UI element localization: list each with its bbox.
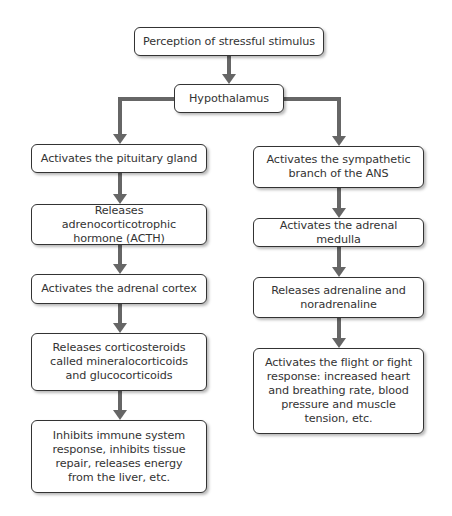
node-label: Releases adrenaline and noradrenaline [271, 284, 406, 312]
node-label: Activates the adrenal medulla [260, 219, 417, 247]
node-label: Inhibits immune system response, inhibit… [53, 429, 186, 485]
arrowhead-icon [113, 194, 127, 204]
arrowhead-icon [332, 208, 346, 218]
node-stimulus-label: Perception of stressful stimulus [143, 35, 315, 49]
arrowhead-icon [332, 338, 346, 348]
node-hypothalamus-label: Hypothalamus [189, 92, 269, 106]
node-adrenal-medulla: Activates the adrenal medulla [253, 218, 424, 247]
node-label: Activates the adrenal cortex [41, 282, 196, 296]
node-stimulus: Perception of stressful stimulus [134, 27, 324, 56]
node-corticosteroids: Releases corticosteroids called mineralo… [31, 333, 207, 391]
node-label: Activates the flight or fight response: … [265, 356, 412, 426]
node-adrenal-cortex: Activates the adrenal cortex [31, 274, 207, 304]
node-adrenaline-release: Releases adrenaline and noradrenaline [253, 277, 424, 318]
arrowhead-icon [332, 136, 346, 146]
node-hypothalamus: Hypothalamus [174, 84, 284, 113]
arrowhead-icon [113, 134, 127, 144]
node-label: Releases adrenocorticotrophic hormone (A… [38, 204, 200, 246]
arrowhead-icon [113, 264, 127, 274]
arrowhead-icon [113, 410, 127, 420]
node-label: Releases corticosteroids called mineralo… [50, 341, 188, 383]
node-label: Activates the sympathetic branch of the … [267, 153, 411, 181]
node-fight-or-flight: Activates the flight or fight response: … [253, 348, 424, 434]
node-immune-inhibition: Inhibits immune system response, inhibit… [31, 420, 207, 493]
node-sympathetic-ans: Activates the sympathetic branch of the … [253, 146, 424, 188]
node-label: Activates the pituitary gland [41, 152, 197, 166]
node-acth-release: Releases adrenocorticotrophic hormone (A… [31, 204, 207, 245]
arrowhead-icon [332, 267, 346, 277]
stress-response-flowchart: Perception of stressful stimulus Hypotha… [0, 0, 452, 516]
arrowhead-icon [113, 323, 127, 333]
node-pituitary-gland: Activates the pituitary gland [31, 144, 207, 173]
arrowhead-icon [222, 74, 236, 84]
